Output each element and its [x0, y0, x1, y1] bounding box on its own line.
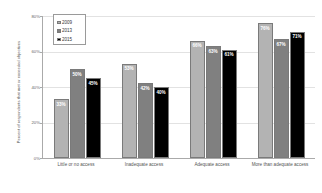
bar-value-label: 53%: [122, 66, 137, 71]
y-tick-label: 80%: [22, 14, 40, 19]
bar-fill: [258, 23, 273, 158]
legend-label: 2009: [62, 20, 72, 25]
x-axis-label: More than adequate access: [246, 161, 314, 173]
x-axis-labels: Little or no accessInadequate accessAdeq…: [42, 161, 314, 173]
y-tick-mark: [40, 158, 43, 159]
bar-value-label: 71%: [290, 34, 305, 39]
bar-value-label: 61%: [222, 52, 237, 57]
bar-fill: [190, 41, 205, 158]
bar-value-label: 63%: [206, 49, 221, 54]
bar-2013-4: 67%: [274, 39, 289, 158]
bar-value-label: 66%: [190, 43, 205, 48]
bar-fill: [222, 50, 237, 158]
bar-chart: Percent of respondents that met or excee…: [0, 0, 322, 193]
x-axis-label: Inadequate access: [110, 161, 178, 173]
x-axis-label: Adequate access: [178, 161, 246, 173]
bar-value-label: 42%: [138, 86, 153, 91]
bar-value-label: 76%: [258, 26, 273, 31]
legend-swatch-icon: [57, 29, 61, 33]
y-tick-label: 0%: [22, 156, 40, 161]
bar-2009-1: 33%: [54, 99, 69, 158]
bar-fill: [274, 39, 289, 158]
x-axis-label: Little or no access: [42, 161, 110, 173]
bar-2015-1: 45%: [86, 78, 101, 158]
legend-swatch-icon: [57, 38, 61, 42]
bar-value-label: 40%: [154, 90, 169, 95]
bar-group: 66%63%61%: [179, 16, 247, 158]
bar-value-label: 33%: [54, 102, 69, 107]
y-tick-label: 20%: [22, 120, 40, 125]
legend-item-2015[interactable]: 2015: [57, 35, 85, 44]
legend-item-2013[interactable]: 2013: [57, 27, 85, 36]
bar-value-label: 45%: [86, 81, 101, 86]
bar-2009-3: 66%: [190, 41, 205, 158]
bar-2013-2: 42%: [138, 83, 153, 158]
bar-fill: [206, 46, 221, 158]
bar-2013-1: 50%: [70, 69, 85, 158]
bar-group: 53%42%40%: [111, 16, 179, 158]
bar-fill: [154, 87, 169, 158]
bar-fill: [70, 69, 85, 158]
legend-swatch-icon: [57, 21, 61, 25]
bar-value-label: 50%: [70, 72, 85, 77]
y-axis-ticks: 80%60%40%20%0%: [20, 0, 40, 193]
legend-label: 2013: [62, 28, 72, 33]
y-tick-label: 40%: [22, 85, 40, 90]
bar-value-label: 67%: [274, 42, 289, 47]
bar-fill: [290, 32, 305, 158]
bar-2013-3: 63%: [206, 46, 221, 158]
bar-2009-2: 53%: [122, 64, 137, 158]
bar-2015-3: 61%: [222, 50, 237, 158]
bar-fill: [122, 64, 137, 158]
bar-2009-4: 76%: [258, 23, 273, 158]
bar-2015-2: 40%: [154, 87, 169, 158]
bar-2015-4: 71%: [290, 32, 305, 158]
bar-fill: [86, 78, 101, 158]
y-tick-label: 60%: [22, 49, 40, 54]
bar-fill: [54, 99, 69, 158]
bar-fill: [138, 83, 153, 158]
bar-group: 76%67%71%: [247, 16, 315, 158]
legend: 200920132015: [53, 14, 86, 45]
legend-item-2009[interactable]: 2009: [57, 18, 85, 27]
legend-label: 2015: [62, 37, 72, 42]
